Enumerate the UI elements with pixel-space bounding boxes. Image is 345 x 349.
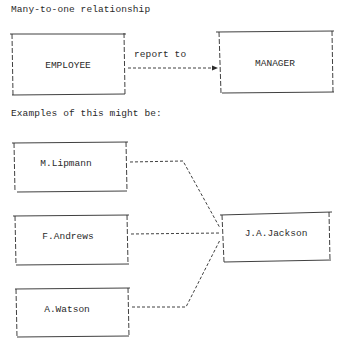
diagram-title: Many-to-one relationship: [11, 4, 150, 15]
relationship-label: report to: [134, 49, 186, 60]
entity-label-employee: EMPLOYEE: [45, 60, 91, 71]
example-employee-lipmann: M.Lipmann: [40, 158, 91, 169]
examples-heading: Examples of this might be:: [11, 108, 162, 119]
lipmann-connector: [130, 161, 220, 228]
example-manager-jackson: J.A.Jackson: [245, 228, 308, 239]
watson-connector: [132, 240, 220, 307]
entity-label-manager: MANAGER: [255, 58, 295, 69]
andrews-connector: [131, 233, 221, 234]
example-employee-watson: A.Watson: [44, 304, 90, 315]
report-to-arrow: [128, 66, 218, 71]
example-employee-andrews: F.Andrews: [42, 231, 93, 242]
